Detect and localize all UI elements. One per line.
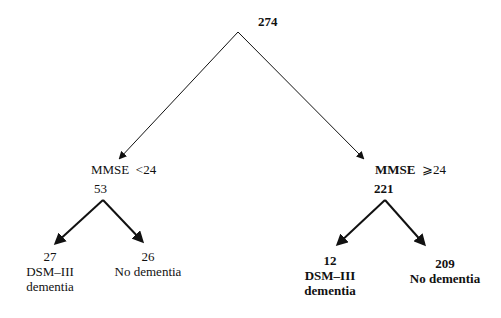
right-count: 221: [374, 181, 394, 196]
right-condition: MMSE ⩾24: [375, 162, 446, 177]
root-to-left-arrow: [120, 32, 238, 158]
root-to-right-arrow: [238, 32, 363, 158]
left-to-dementia-arrow: [56, 200, 103, 243]
left-condition-label: MMSE: [91, 162, 129, 177]
left-dementia-node: 27 DSM–III dementia: [20, 249, 80, 294]
right-condition-label: MMSE: [375, 162, 415, 177]
left-to-no-dementia-arrow: [103, 200, 142, 241]
right-no-dementia-count: 209: [400, 256, 490, 271]
right-condition-op: ⩾24: [422, 162, 446, 177]
right-no-dementia-line1: No dementia: [400, 271, 490, 286]
left-count: 53: [94, 181, 107, 196]
right-dementia-node: 12 DSM–III dementia: [300, 253, 360, 298]
right-to-no-dementia-arrow: [385, 200, 424, 244]
right-dementia-count: 12: [300, 253, 360, 268]
right-no-dementia-node: 209 No dementia: [400, 256, 490, 286]
right-dementia-line1: DSM–III: [300, 268, 360, 283]
left-dementia-line1: DSM–III: [20, 264, 80, 279]
right-to-dementia-arrow: [338, 200, 385, 244]
root-count: 274: [258, 14, 278, 29]
left-no-dementia-count: 26: [108, 249, 188, 264]
right-dementia-line2: dementia: [300, 283, 360, 298]
left-no-dementia-line1: No dementia: [108, 264, 188, 279]
left-dementia-count: 27: [20, 249, 80, 264]
left-no-dementia-node: 26 No dementia: [108, 249, 188, 279]
left-condition: MMSE <24: [91, 162, 156, 177]
left-condition-op: <24: [136, 162, 156, 177]
left-dementia-line2: dementia: [20, 279, 80, 294]
